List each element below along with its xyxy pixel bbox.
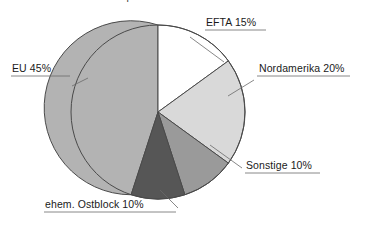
pie-chart bbox=[0, 0, 365, 225]
pie-label-ehem-ostblock: ehem. Ostblock 10% bbox=[45, 198, 144, 210]
pie-label-eu: EU 45% bbox=[12, 62, 51, 74]
figure-canvas: Woher kommen unsere Importe aus EFTA 15% bbox=[0, 0, 365, 225]
pie-label-sonstige: Sonstige 10% bbox=[246, 159, 312, 171]
pie-label-nordamerika: Nordamerika 20% bbox=[259, 62, 345, 74]
pie-label-efta: EFTA 15% bbox=[206, 16, 256, 28]
